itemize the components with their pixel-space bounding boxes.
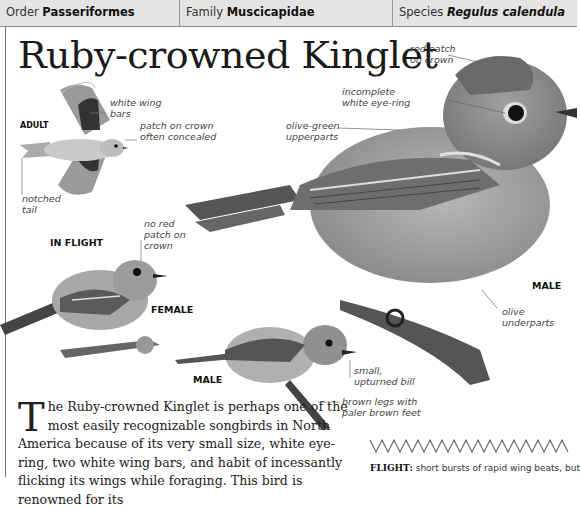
- callout-upperparts: olive-green upperparts: [286, 120, 340, 142]
- drop-cap: T: [18, 400, 45, 434]
- callout-no-red-patch: no red patch on crown: [144, 218, 186, 251]
- callout-eye-ring: incomplete white eye-ring: [342, 86, 410, 108]
- flight-label: FLIGHT:: [370, 463, 413, 473]
- female-tag: FEMALE: [151, 304, 193, 315]
- in-flight-tag: IN FLIGHT: [50, 237, 103, 248]
- callout-white-wing-bars: white wing bars: [110, 97, 161, 119]
- description-text: he Ruby-crowned Kinglet is perhaps one o…: [18, 399, 348, 507]
- callout-underparts: olive underparts: [502, 306, 554, 328]
- flight-pattern-zigzag: [370, 440, 568, 452]
- flight-text: short bursts of rapid wing beats, but: [416, 463, 580, 473]
- male-small-tag: MALE: [193, 374, 222, 385]
- callout-notched-tail: notched tail: [22, 193, 61, 215]
- callout-crown-patch-concealed: patch on crown often concealed: [140, 120, 216, 142]
- species-description: The Ruby-crowned Kinglet is perhaps one …: [18, 398, 363, 508]
- female-photo: [0, 240, 168, 358]
- male-large-tag: MALE: [532, 280, 561, 291]
- callout-red-patch: red patch on crown: [410, 43, 456, 65]
- adult-tag: ADULT: [20, 121, 49, 130]
- flight-note: FLIGHT: short bursts of rapid wing beats…: [370, 463, 580, 473]
- callout-bill: small, upturned bill: [354, 365, 415, 387]
